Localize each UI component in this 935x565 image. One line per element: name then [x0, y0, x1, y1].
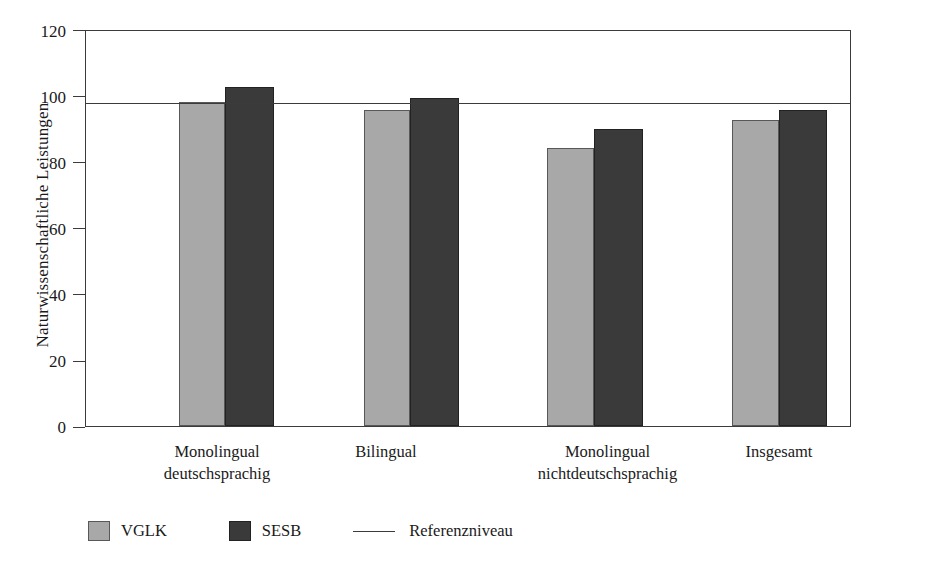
- x-category-label-4-line1: Insgesamt: [746, 442, 813, 461]
- y-tick-label-40: 40: [49, 287, 66, 304]
- y-tick-label-80: 80: [49, 155, 66, 172]
- legend-swatch-vglk-icon: [88, 521, 110, 541]
- y-tick-mark-40: [73, 294, 85, 295]
- y-tick-label-60: 60: [49, 221, 66, 238]
- x-category-label-3-line2: nichtdeutschsprachig: [520, 463, 695, 485]
- y-tick-mark-0: [73, 427, 85, 428]
- y-tick-label-20: 20: [49, 353, 66, 370]
- x-category-label-1-line2: deutschsprachig: [142, 463, 292, 485]
- bar-sesb-monolingual-deutschsprachig[interactable]: [225, 87, 274, 426]
- bar-sesb-insgesamt[interactable]: [779, 110, 827, 426]
- bar-vglk-insgesamt[interactable]: [732, 120, 779, 426]
- legend-entry-referenzniveau[interactable]: Referenzniveau: [353, 521, 513, 541]
- y-tick-label-0: 0: [58, 419, 67, 436]
- reference-level-line: [86, 103, 850, 104]
- y-tick-mark-120: [73, 30, 85, 31]
- bar-vglk-bilingual[interactable]: [364, 110, 410, 426]
- bar-sesb-monolingual-nichtdeutschsprachig[interactable]: [594, 129, 643, 426]
- y-tick-mark-100: [73, 96, 85, 97]
- legend-label-vglk: VGLK: [121, 521, 167, 541]
- legend-line-marker-icon: [353, 531, 395, 532]
- y-tick-label-100: 100: [41, 89, 67, 106]
- bar-vglk-monolingual-deutschsprachig[interactable]: [179, 102, 225, 426]
- legend-entry-vglk[interactable]: VGLK: [88, 521, 167, 541]
- x-category-label-2: Bilingual: [311, 441, 461, 463]
- chart-legend: VGLK SESB Referenzniveau: [88, 521, 513, 541]
- y-tick-mark-60: [73, 228, 85, 229]
- plot-area: [85, 30, 851, 427]
- y-tick-mark-20: [73, 361, 85, 362]
- legend-label-referenzniveau: Referenzniveau: [409, 521, 513, 541]
- x-category-label-1-line1: Monolingual: [174, 442, 259, 461]
- y-tick-label-120: 120: [41, 23, 67, 40]
- legend-swatch-sesb-icon: [229, 521, 251, 541]
- x-category-label-3: Monolingual nichtdeutschsprachig: [520, 441, 695, 486]
- x-category-label-2-line1: Bilingual: [355, 442, 416, 461]
- x-category-label-1: Monolingual deutschsprachig: [142, 441, 292, 486]
- y-tick-mark-80: [73, 162, 85, 163]
- bar-vglk-monolingual-nichtdeutschsprachig[interactable]: [547, 148, 594, 426]
- legend-label-sesb: SESB: [262, 521, 301, 541]
- legend-entry-sesb[interactable]: SESB: [229, 521, 301, 541]
- bar-sesb-bilingual[interactable]: [410, 98, 459, 427]
- x-category-label-4: Insgesamt: [704, 441, 854, 463]
- x-category-label-3-line1: Monolingual: [565, 442, 650, 461]
- bar-chart-figure: Naturwissenschaftliche Leistungen 120 10…: [0, 0, 935, 565]
